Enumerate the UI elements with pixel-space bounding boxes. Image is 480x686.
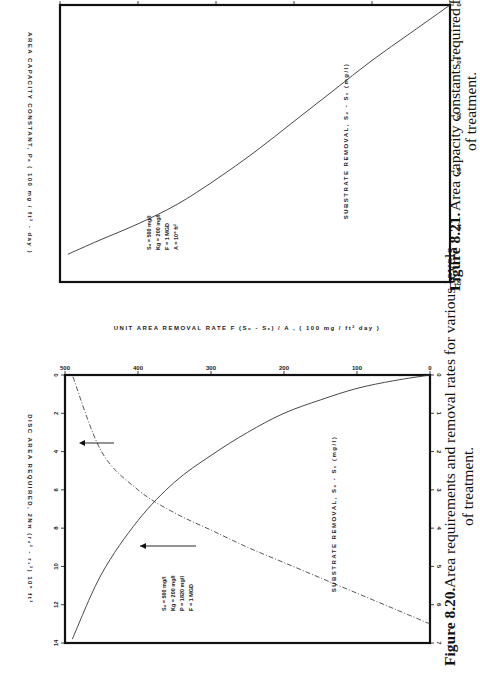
capacity-constant-curve <box>68 5 450 254</box>
caption-number: Figure 8.21. <box>446 212 463 291</box>
legend-item: P = 1820 mg/l <box>179 576 185 611</box>
y-right-tick-label: 2 <box>53 411 59 415</box>
legend-item: A = 10⁶ ft² <box>173 224 179 250</box>
legend: S₀ = 500 mg/l Kg = 200 mg/l F = 1 MGD A … <box>146 214 179 250</box>
x-tick-label: 300 <box>206 365 217 371</box>
y-right-tick-label: 4 <box>53 449 59 453</box>
removal-rate-curve <box>72 375 430 624</box>
y-right-tick-label: 0 <box>53 373 59 377</box>
legend-item: Kg = 200 mg/l <box>170 575 176 611</box>
legend-item: S₀ = 500 mg/l <box>146 215 152 250</box>
caption-text: Area requirements and removal rates for … <box>441 248 458 588</box>
x-axis-label: SUBSTRATE REMOVAL, S₀ - Sₑ (mg/l) <box>331 436 337 593</box>
x-tick-label: 500 <box>60 365 71 371</box>
rotated-page: 01002003004005000123456702468101214 S₀ =… <box>0 0 480 686</box>
caption-text: Area capacity constants required for var… <box>446 0 463 211</box>
y-right-tick-label: 14 <box>53 639 59 646</box>
caption-text-line2: of treatment. <box>462 72 479 151</box>
y-right-tick-label: 12 <box>53 601 59 608</box>
figure-8-21: 01020304050 S₀ = 500 mg/l Kg = 200 mg/l … <box>27 0 479 291</box>
legend-item: F = 1 MGD <box>188 584 194 611</box>
y-right-axis-label: UNIT AREA REMOVAL RATE F (S₀ - Sₑ) / A ,… <box>114 325 381 331</box>
figure-8-20: 01002003004005000123456702468101214 S₀ =… <box>27 248 476 666</box>
y-right-tick-label: 10 <box>53 562 59 569</box>
y-right-tick-label: 6 <box>53 488 59 492</box>
legend: S₀ = 500 mg/l Kg = 200 mg/l P = 1820 mg/… <box>161 575 194 611</box>
legend-item: S₀ = 500 mg/l <box>161 576 167 611</box>
caption-text-line2: of treatment. <box>459 447 476 526</box>
x-tick-label: 0 <box>428 365 432 371</box>
y-right-tick-label: 8 <box>53 526 59 530</box>
x-tick-label: 400 <box>133 365 144 371</box>
x-tick-label: 200 <box>279 365 290 371</box>
caption-number: Figure 8.20. <box>441 587 458 666</box>
arrow-to-left-axis-icon <box>140 543 196 549</box>
plot-frame <box>65 375 430 643</box>
y-left-axis-label: DISC AREA REQUIRED, 2Nπ (r₂² - r₁²) 10⁶ … <box>27 414 33 604</box>
x-axis-label: SUBSTRATE REMOVAL, S₀ - Sₑ (mg/l) <box>343 63 349 220</box>
legend-item: Kg = 200 mg/l <box>155 214 161 250</box>
legend-item: F = 1 MGD <box>164 223 170 250</box>
disc-area-curve <box>72 375 430 639</box>
axis-ticks: 01020304050 <box>60 1 462 286</box>
x-tick-label: 100 <box>352 365 363 371</box>
y-axis-label: AREA CAPACITY CONSTANT, Pₐ ( 100 mg / ft… <box>27 32 33 254</box>
